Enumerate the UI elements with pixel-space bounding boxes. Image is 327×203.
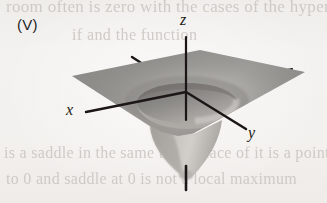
figure-panel: room often is zero with the cases of the… [0,0,327,203]
axis-label-z: z [180,11,186,29]
axis-label-x: x [66,101,73,119]
surface-plot-graphic [0,0,327,203]
axis-label-y: y [248,124,255,142]
